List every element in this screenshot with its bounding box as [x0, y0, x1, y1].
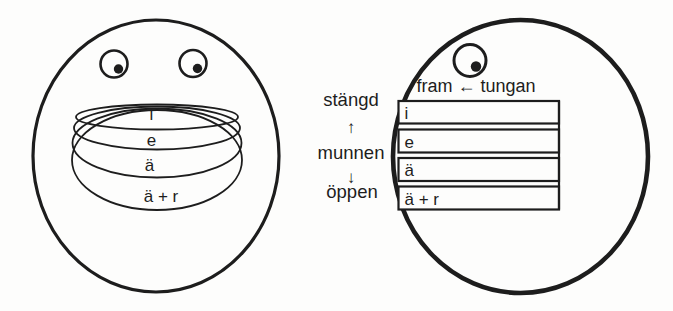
profile-face-figure: fram ← tungan i e ä ä + r stängd ↑ munne — [318, 20, 648, 293]
eye-outline-icon — [180, 50, 207, 77]
profile-eye — [454, 45, 486, 77]
eye-pupil-icon — [193, 64, 202, 73]
mouth-vowel-labels: i e ä ä + r — [144, 105, 179, 206]
eye-outline-icon — [101, 51, 128, 78]
mouth-label-i: i — [150, 105, 154, 124]
mouth-ellipse-e — [74, 107, 240, 150]
diagram-canvas: i e ä ä + r fram ← tungan — [0, 0, 673, 311]
tongue-row-i — [399, 101, 560, 124]
row-label-i: i — [405, 104, 409, 123]
row-label-ae-r: ä + r — [405, 190, 440, 209]
mouth-axis-labels: stängd ↑ munnen ↓ öppen — [318, 89, 385, 202]
mouth-label-ae: ä — [145, 156, 155, 175]
axis-label-mouth: munnen — [318, 142, 385, 163]
tongue-row-e — [399, 130, 560, 153]
front-left-eye — [101, 51, 128, 78]
vowel-diagram: i e ä ä + r fram ← tungan — [0, 0, 673, 311]
eye-outline-icon — [454, 45, 486, 77]
axis-label-closed: stängd — [323, 89, 379, 110]
mouth-label-ae-r: ä + r — [144, 187, 179, 206]
tongue-direction-label: fram ← tungan — [416, 76, 535, 96]
mouth-label-e: e — [147, 131, 156, 150]
eye-pupil-icon — [114, 64, 123, 73]
front-right-eye — [180, 50, 207, 77]
axis-label-open: öppen — [326, 181, 377, 202]
row-label-ae: ä — [405, 161, 415, 180]
arrow-up-icon: ↑ — [347, 118, 356, 137]
front-face-figure: i e ä ä + r — [33, 20, 279, 292]
tongue-row-ae — [399, 158, 560, 181]
row-label-e: e — [405, 133, 414, 152]
eye-pupil-icon — [471, 61, 481, 71]
profile-head-outline — [393, 20, 648, 293]
